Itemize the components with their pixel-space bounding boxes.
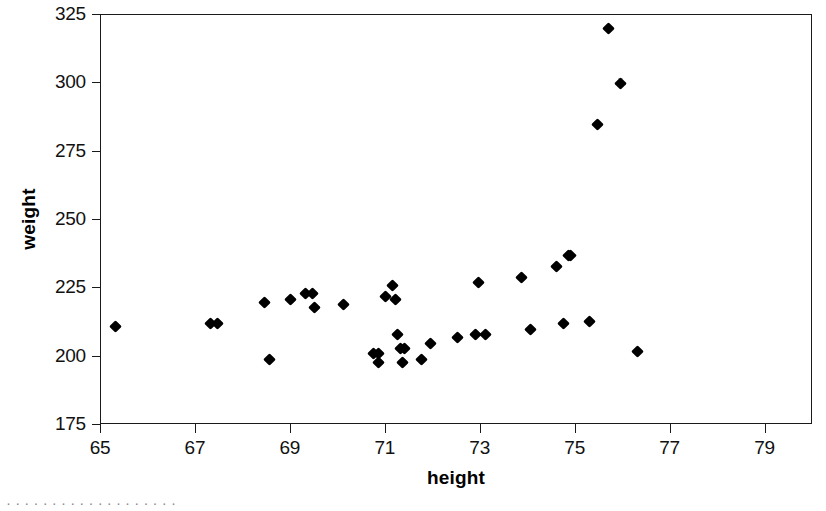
x-axis-tick xyxy=(765,424,766,433)
x-axis-tick xyxy=(195,424,196,433)
y-axis-tick xyxy=(92,356,100,357)
x-axis-tick xyxy=(670,424,671,433)
data-point xyxy=(631,345,644,358)
y-axis-tick xyxy=(92,151,100,152)
data-point xyxy=(603,22,616,35)
data-point xyxy=(258,296,271,309)
data-point xyxy=(391,328,404,341)
x-axis-tick xyxy=(575,424,576,433)
y-axis-tick-label: 325 xyxy=(26,4,86,23)
x-axis-tick-label: 79 xyxy=(735,437,795,458)
y-axis-tick-label: 200 xyxy=(26,346,86,365)
data-point xyxy=(263,353,276,366)
y-axis-tick xyxy=(92,287,100,288)
x-axis-tick-label: 75 xyxy=(545,437,605,458)
x-axis-title: height xyxy=(100,467,812,489)
data-point xyxy=(479,328,492,341)
y-axis-tick xyxy=(92,424,100,425)
y-axis-tick-label: 300 xyxy=(26,72,86,91)
data-points-layer xyxy=(101,15,811,423)
y-axis-tick-label: 225 xyxy=(26,277,86,296)
x-axis-tick-label: 65 xyxy=(70,437,130,458)
y-axis-tick-label: 175 xyxy=(26,414,86,433)
data-point xyxy=(308,301,321,314)
x-axis-tick-label: 69 xyxy=(260,437,320,458)
x-axis-tick xyxy=(290,424,291,433)
data-point xyxy=(524,323,537,336)
y-axis-tick xyxy=(92,14,100,15)
x-axis-tick-label: 71 xyxy=(355,437,415,458)
data-point xyxy=(337,298,350,311)
y-axis-tick xyxy=(92,219,100,220)
x-axis-tick-label: 73 xyxy=(450,437,510,458)
data-point xyxy=(109,320,122,333)
plot-area xyxy=(100,14,812,424)
caption-strip: · · · · · · · · · · · · · · · · · · · xyxy=(0,500,826,511)
data-point xyxy=(415,353,428,366)
data-point xyxy=(387,279,400,292)
y-axis-tick-label: 275 xyxy=(26,141,86,160)
data-point xyxy=(515,271,528,284)
x-axis-tick xyxy=(385,424,386,433)
data-point xyxy=(396,356,409,369)
data-point xyxy=(425,337,438,350)
data-point xyxy=(451,331,464,344)
data-point xyxy=(557,317,570,330)
data-point xyxy=(284,293,297,306)
data-point xyxy=(614,77,627,90)
x-axis-tick-label: 67 xyxy=(165,437,225,458)
data-point xyxy=(591,118,604,131)
caption-text: · · · · · · · · · · · · · · · · · · · xyxy=(6,500,176,511)
x-axis-tick xyxy=(100,424,101,433)
x-axis-tick xyxy=(480,424,481,433)
data-point xyxy=(472,276,485,289)
y-axis-title: weight xyxy=(18,159,40,279)
data-point xyxy=(584,315,597,328)
y-axis-tick xyxy=(92,82,100,83)
data-point xyxy=(550,260,563,273)
y-axis: 175200225250275300325 xyxy=(0,0,86,511)
scatter-plot-figure: 175200225250275300325 weight height · · … xyxy=(0,0,826,511)
x-axis-tick-label: 77 xyxy=(640,437,700,458)
